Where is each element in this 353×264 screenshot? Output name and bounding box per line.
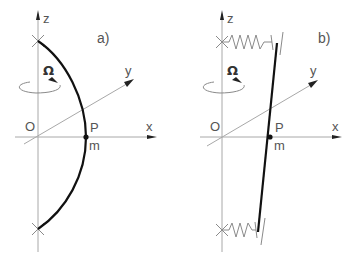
z-axis-label: z [227, 11, 234, 26]
z-axis-arrow-icon [36, 10, 40, 20]
x-axis-arrow-icon [332, 135, 342, 139]
panel-a-label: a) [97, 30, 109, 46]
y-axis-arrow-icon [308, 80, 318, 88]
x-axis-label: x [332, 119, 339, 134]
point-mass-dot [267, 134, 272, 139]
point-label: P [90, 120, 99, 135]
top-spring-icon [216, 32, 283, 55]
x-axis-arrow-icon [147, 135, 157, 139]
omega-label: Ω [227, 63, 238, 78]
z-axis-arrow-icon [220, 10, 224, 20]
y-axis-label: y [125, 63, 132, 78]
panel-b: z b) Ω y O P x m [200, 10, 342, 252]
panel-a: z a) Ω y O P x m [15, 10, 157, 252]
diagram-canvas: z a) Ω y O P x m [0, 0, 353, 264]
rotation-arrow-icon [19, 77, 60, 93]
y-axis-label: y [310, 63, 317, 78]
origin-label: O [210, 119, 220, 134]
rotation-arrow-icon [203, 77, 244, 93]
point-label: P [275, 120, 284, 135]
z-axis-label: z [43, 11, 50, 26]
mass-label: m [274, 138, 285, 153]
omega-label: Ω [43, 63, 54, 78]
x-axis-label: x [146, 119, 153, 134]
mass-label: m [89, 138, 100, 153]
origin-label: O [25, 119, 35, 134]
y-axis-arrow-icon [124, 79, 134, 87]
point-mass-dot [83, 134, 88, 139]
panel-b-label: b) [318, 30, 330, 46]
